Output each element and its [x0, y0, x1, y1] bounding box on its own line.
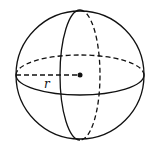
equator-front-solid	[16, 75, 144, 95]
sphere-diagram: r	[0, 0, 154, 150]
meridian-back-dashed	[80, 10, 100, 140]
radius-label: r	[44, 77, 51, 91]
center-point	[78, 73, 83, 78]
equator-back-dashed	[16, 55, 144, 75]
